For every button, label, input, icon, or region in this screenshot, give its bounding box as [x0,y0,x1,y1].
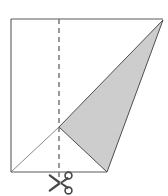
paper-folding-diagram [0,0,168,196]
diagram-background [0,0,168,196]
figure-root: A square sheet of paper with a vertical … [0,0,168,196]
